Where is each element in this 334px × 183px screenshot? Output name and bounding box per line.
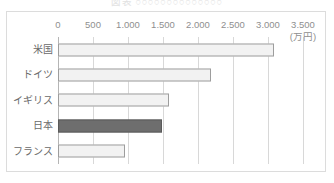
category-label: ドイツ (23, 62, 53, 87)
x-tick-label: 3.000 (256, 19, 280, 31)
chart-title: 図表 ○○○○○○○○○○○○○○ (0, 0, 334, 7)
chart-container: 図表 ○○○○○○○○○○○○○○ 05001.0001.5002.0002.5… (0, 0, 334, 183)
axis-unit-label: (万円) (290, 31, 316, 43)
bar (58, 69, 211, 82)
category-label: イギリス (13, 88, 53, 113)
x-tick-label: 1.500 (151, 19, 175, 31)
bar (58, 94, 169, 107)
category-axis-labels: 米国ドイツイギリス日本フランス (0, 37, 56, 164)
x-tick-label: 3.500 (291, 19, 315, 31)
bar (58, 119, 162, 132)
x-tick-label: 0 (55, 19, 60, 31)
bar-row (58, 139, 303, 164)
category-label: 米国 (33, 37, 53, 62)
x-tick-label: 500 (85, 19, 101, 31)
bar (58, 145, 125, 158)
bar-row (58, 37, 303, 62)
x-tick-label: 2.000 (186, 19, 210, 31)
plot-area (58, 37, 303, 164)
x-tick-label: 2.500 (221, 19, 245, 31)
category-label: 日本 (33, 113, 53, 138)
bar (58, 43, 274, 56)
bar-row (58, 113, 303, 138)
bar-row (58, 62, 303, 87)
bar-row (58, 88, 303, 113)
x-tick-label: 1.000 (116, 19, 140, 31)
x-axis-tick-labels: 05001.0001.5002.0002.5003.0003.500 (0, 19, 334, 31)
gridline (303, 37, 304, 164)
category-label: フランス (13, 139, 53, 164)
